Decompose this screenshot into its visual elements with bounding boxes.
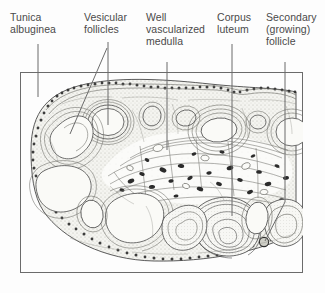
label-corpus-luteum: Corpus luteum bbox=[217, 11, 251, 35]
label-well-vascularized-medulla: Well vascularized medulla bbox=[146, 11, 205, 48]
label-vesicular-follicles: Vesicular follicles bbox=[84, 11, 127, 35]
label-secondary-growing-follicle: Secondary (growing) follicle bbox=[266, 11, 317, 48]
label-tunica-albuginea: Tunica albuginea bbox=[10, 11, 56, 35]
ovary-section bbox=[30, 79, 317, 261]
ovary-histology-figure: Tunica albuginea Vesicular follicles Wel… bbox=[0, 0, 325, 293]
